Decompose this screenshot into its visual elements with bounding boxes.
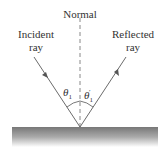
- theta-reflected-label: θ1′: [84, 86, 94, 107]
- reflection-diagram: [0, 0, 168, 150]
- incident-ray: [34, 57, 80, 127]
- prime-mark: ′: [89, 88, 91, 96]
- incident-ray-label: Incident ray: [8, 28, 64, 54]
- incident-label-line1: Incident: [8, 28, 64, 41]
- reflecting-surface: [12, 127, 158, 147]
- theta-incident-label: θ1: [63, 86, 72, 104]
- reflected-label-line2: ray: [103, 41, 163, 54]
- reflected-label-line1: Reflected: [103, 28, 163, 41]
- theta-subscript: 1: [89, 96, 93, 104]
- normal-label: Normal: [59, 8, 101, 21]
- incident-arrow-icon: [42, 72, 48, 78]
- theta-subscript: 1: [68, 93, 72, 101]
- reflected-ray-label: Reflected ray: [103, 28, 163, 54]
- incident-label-line2: ray: [8, 41, 64, 54]
